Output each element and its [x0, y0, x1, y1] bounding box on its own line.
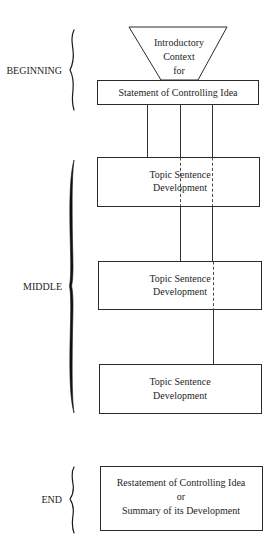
- beginning-label: BEGINNING: [6, 65, 62, 76]
- end-brace-icon: [70, 467, 74, 533]
- beginning-section: BEGINNING Introductory Context for State…: [6, 27, 258, 110]
- conclusion-line-3: Summary of its Development: [122, 505, 240, 516]
- topic-box-2-line-1: Topic Sentence: [149, 273, 211, 284]
- funnel-line-2: Context: [163, 51, 195, 62]
- controlling-idea-text: Statement of Controlling Idea: [118, 87, 238, 98]
- topic-box-1-line-2: Development: [153, 182, 207, 193]
- funnel-line-1: Introductory: [154, 37, 204, 48]
- topic-box-3: [100, 365, 262, 414]
- connector-lines: [148, 105, 214, 365]
- topic-box-3-line-2: Development: [153, 390, 207, 401]
- middle-label: MIDDLE: [23, 281, 62, 292]
- beginning-brace-icon: [70, 30, 74, 110]
- end-label: END: [41, 494, 62, 505]
- essay-structure-diagram: BEGINNING Introductory Context for State…: [0, 0, 277, 558]
- end-section: END Restatement of Controlling Idea or S…: [41, 467, 262, 534]
- middle-brace-icon: [70, 160, 75, 413]
- topic-box-1-line-1: Topic Sentence: [149, 169, 211, 180]
- conclusion-line-1: Restatement of Controlling Idea: [117, 477, 246, 488]
- middle-section: MIDDLE Topic Sentence Development Topic …: [23, 158, 261, 414]
- conclusion-line-2: or: [177, 491, 186, 502]
- funnel-line-3: for: [173, 65, 185, 76]
- topic-box-3-line-1: Topic Sentence: [149, 376, 211, 387]
- topic-box-2-line-2: Development: [153, 286, 207, 297]
